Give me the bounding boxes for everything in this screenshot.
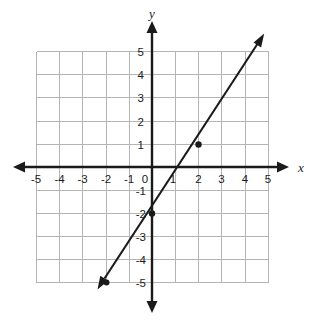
x-tick-label--4: -4 [54, 173, 65, 185]
point-marker-0--2 [149, 210, 155, 216]
y-tick-label-2: 2 [138, 116, 144, 128]
x-axis-arrow-right [277, 162, 289, 173]
point-marker--2--5 [104, 280, 110, 286]
function-line [98, 34, 265, 290]
x-tick-label-2: 2 [195, 173, 201, 185]
x-axis-label: x [297, 160, 304, 175]
x-tick-label--5: -5 [31, 173, 41, 185]
x-tick-label-3: 3 [218, 173, 224, 185]
y-tick-label-5: 5 [138, 46, 144, 58]
y-tick-label-1: 1 [138, 139, 144, 151]
function-arrow-upper-right [254, 34, 265, 48]
y-axis-arrow-down [147, 301, 158, 313]
graph-canvas: 5 4 3 2 1 -1 -2 -3 -4 -5 -5 -4 -3 -2 -1 … [0, 0, 316, 329]
origin-label-0: 0 [142, 173, 148, 185]
function-line-segment [105, 40, 261, 279]
y-tick-label--3: -3 [136, 231, 146, 243]
x-axis-negative-tick-labels: -5 -4 -3 -2 -1 [31, 173, 134, 185]
point-marker-2-1 [195, 141, 201, 147]
coordinate-plane-figure: 5 4 3 2 1 -1 -2 -3 -4 -5 -5 -4 -3 -2 -1 … [0, 0, 316, 329]
y-tick-label-3: 3 [138, 92, 144, 104]
x-axis-positive-tick-labels: 1 2 3 4 5 [170, 173, 271, 185]
x-tick-label--1: -1 [124, 173, 134, 185]
y-axis-arrow-up [147, 21, 158, 33]
x-tick-label--2: -2 [101, 173, 111, 185]
x-tick-label-5: 5 [265, 173, 271, 185]
y-axis-positive-tick-labels: 5 4 3 2 1 [138, 46, 145, 151]
y-axis-negative-tick-labels: -1 -2 -3 -4 -5 [136, 185, 147, 289]
x-axis-arrow-left [13, 162, 25, 173]
y-tick-label--1: -1 [136, 185, 146, 197]
y-axis-label: y [147, 6, 155, 21]
x-tick-label--3: -3 [77, 173, 87, 185]
y-tick-label--4: -4 [136, 254, 147, 266]
y-tick-label--5: -5 [136, 277, 146, 289]
y-tick-label--2: -2 [136, 208, 146, 220]
x-tick-label-4: 4 [242, 173, 249, 185]
y-tick-label-4: 4 [138, 69, 145, 81]
x-tick-label-1: 1 [170, 173, 176, 185]
